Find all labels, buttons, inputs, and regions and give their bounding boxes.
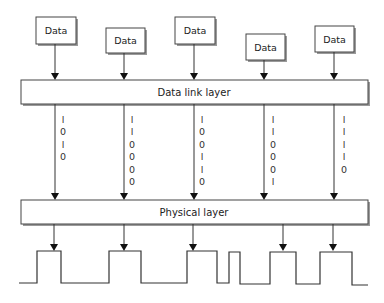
data-box-label: Data bbox=[45, 25, 68, 36]
physical-output-arrows bbox=[50, 224, 337, 251]
arrowhead-icon bbox=[329, 244, 337, 251]
bit-value: l bbox=[131, 126, 134, 137]
bit-sequence: l0l0 bbox=[60, 114, 66, 162]
bit-value: 0 bbox=[60, 126, 66, 137]
data-box-label: Data bbox=[323, 34, 346, 45]
bit-value: l bbox=[343, 139, 346, 150]
data-box: Data bbox=[175, 17, 217, 46]
bit-value: 0 bbox=[199, 176, 205, 187]
bit-value: 0 bbox=[60, 151, 66, 162]
bit-sequence: ll000l bbox=[270, 114, 276, 187]
arrowhead-icon bbox=[330, 73, 338, 80]
physical-to-signal-arrow bbox=[120, 224, 128, 251]
data-box: Data bbox=[36, 17, 78, 46]
bit-value: l bbox=[272, 114, 275, 125]
bit-sequence: l00ll0 bbox=[199, 114, 205, 187]
data-box-label: Data bbox=[254, 42, 277, 53]
bit-value: l bbox=[201, 164, 204, 175]
data-to-dll-arrow bbox=[260, 60, 268, 80]
physical-layer-box: Physical layer bbox=[21, 200, 370, 226]
bit-value: 0 bbox=[129, 176, 135, 187]
data-to-dll-arrow bbox=[330, 52, 338, 80]
bit-value: l bbox=[201, 151, 204, 162]
dll-to-physical-arrow bbox=[260, 104, 268, 200]
bit-value: l bbox=[272, 126, 275, 137]
physical-to-signal-arrow bbox=[50, 224, 58, 251]
bit-value: 0 bbox=[270, 164, 276, 175]
arrowhead-icon bbox=[190, 193, 198, 200]
arrowhead-icon bbox=[120, 73, 128, 80]
data-boxes: DataDataDataDataData bbox=[36, 17, 356, 80]
bit-value: 0 bbox=[199, 126, 205, 137]
bit-sequence: llll0 bbox=[341, 114, 347, 175]
arrowhead-icon bbox=[50, 244, 58, 251]
signal-waveform bbox=[19, 251, 368, 285]
bit-value: l bbox=[201, 114, 204, 125]
osi-layers-diagram: DataDataDataDataData Data link layer l0l… bbox=[0, 0, 384, 303]
data-box-label: Data bbox=[114, 35, 137, 46]
bit-value: 0 bbox=[270, 151, 276, 162]
arrowhead-icon bbox=[279, 244, 287, 251]
physical-to-signal-arrow bbox=[279, 224, 287, 251]
dll-to-physical-arrow bbox=[120, 104, 128, 200]
bit-value: l bbox=[62, 114, 65, 125]
arrowhead-icon bbox=[189, 244, 197, 251]
data-to-dll-arrow bbox=[120, 53, 128, 80]
bit-value: 0 bbox=[129, 164, 135, 175]
bit-value: l bbox=[343, 126, 346, 137]
physical-layer-label: Physical layer bbox=[160, 207, 230, 218]
arrowhead-icon bbox=[120, 193, 128, 200]
data-to-dll-arrow bbox=[190, 44, 198, 80]
bit-value: 0 bbox=[341, 164, 347, 175]
bit-sequence: ll0000 bbox=[129, 114, 135, 187]
arrowhead-icon bbox=[260, 193, 268, 200]
data-link-layer-box: Data link layer bbox=[21, 80, 370, 106]
physical-to-signal-arrow bbox=[189, 224, 197, 251]
data-box-label: Data bbox=[184, 25, 207, 36]
arrowhead-icon bbox=[51, 73, 59, 80]
data-box: Data bbox=[315, 26, 356, 54]
data-box: Data bbox=[106, 28, 147, 55]
dll-to-physical-arrow bbox=[51, 104, 59, 200]
physical-to-signal-arrow bbox=[329, 224, 337, 251]
bit-value: l bbox=[343, 151, 346, 162]
dll-to-physical-arrow bbox=[330, 104, 338, 200]
arrowhead-icon bbox=[51, 193, 59, 200]
bit-value: l bbox=[62, 139, 65, 150]
bit-value: l bbox=[272, 176, 275, 187]
bit-value: l bbox=[131, 114, 134, 125]
bit-value: 0 bbox=[129, 139, 135, 150]
data-link-layer-label: Data link layer bbox=[157, 87, 231, 98]
data-to-dll-arrow bbox=[51, 44, 59, 80]
arrowhead-icon bbox=[330, 193, 338, 200]
arrowhead-icon bbox=[120, 244, 128, 251]
bit-value: 0 bbox=[129, 151, 135, 162]
arrowhead-icon bbox=[260, 73, 268, 80]
bit-value: l bbox=[343, 114, 346, 125]
bit-columns: l0l0ll0000l00ll0ll000lllll0 bbox=[51, 104, 347, 200]
bit-value: 0 bbox=[199, 139, 205, 150]
bit-value: 0 bbox=[270, 139, 276, 150]
data-box: Data bbox=[246, 34, 287, 62]
arrowhead-icon bbox=[190, 73, 198, 80]
dll-to-physical-arrow bbox=[190, 104, 198, 200]
